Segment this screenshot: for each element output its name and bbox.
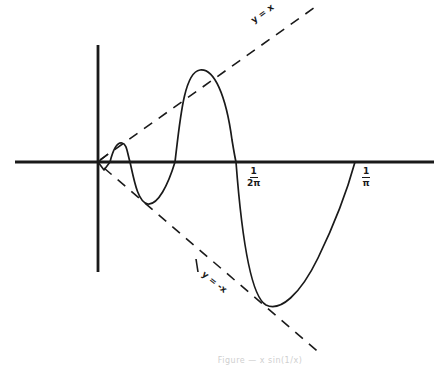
guide-line-y-equals-x — [100, 5, 318, 160]
tick-denominator: 2π — [247, 178, 260, 188]
guide-line-y-equals-neg-x — [104, 168, 322, 355]
x-tick-label-1-over-2pi: 1 2π — [247, 167, 260, 188]
label-tick — [196, 259, 198, 272]
function-curve — [110, 70, 355, 307]
figure-caption: Figure — x sin(1/x) — [150, 356, 370, 365]
function-plot — [0, 0, 442, 367]
tick-numerator: 1 — [362, 167, 370, 178]
tick-denominator: π — [363, 178, 370, 188]
tick-numerator: 1 — [250, 167, 258, 178]
x-tick-label-1-over-pi: 1 π — [362, 167, 370, 188]
